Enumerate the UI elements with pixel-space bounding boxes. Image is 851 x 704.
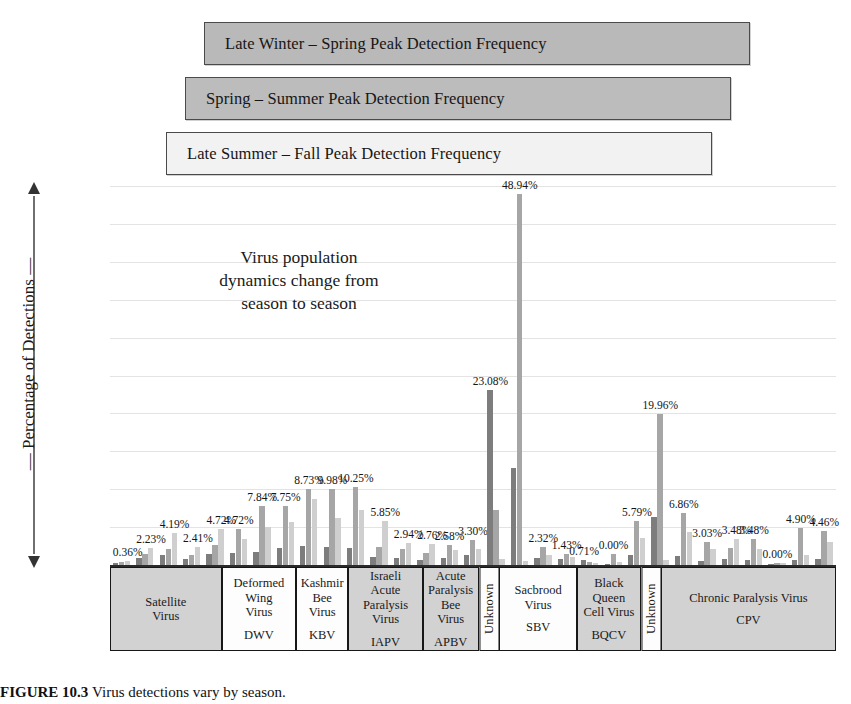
gridline	[110, 186, 836, 187]
bar-data-label: 7.75%	[271, 491, 301, 503]
bar-data-label: 0.00%	[599, 539, 629, 551]
category-abbreviation: KBV	[309, 628, 335, 643]
bar-data-label: 48.94%	[502, 179, 537, 191]
y-axis-title: — Percentage of Detections —	[19, 179, 39, 549]
bar-data-label: 3.30%	[458, 525, 488, 537]
bar	[376, 547, 381, 565]
y-axis-title-container: — Percentage of Detections —	[2, 180, 46, 570]
bar	[236, 529, 241, 565]
bar	[517, 194, 522, 565]
bar	[148, 548, 153, 565]
legend-item-late-summer-fall: Late Summer – Fall Peak Detection Freque…	[166, 132, 712, 175]
category-abbreviation: IAPV	[371, 635, 400, 650]
category-abbreviation: SBV	[526, 620, 550, 635]
bar	[511, 468, 516, 565]
bar	[640, 538, 645, 565]
gridline	[110, 489, 836, 490]
category-box: Black Queen Cell VirusBQCV	[577, 567, 640, 651]
bar	[470, 540, 475, 565]
legend-label: Late Winter – Spring Peak Detection Freq…	[225, 34, 547, 54]
bar	[265, 527, 270, 565]
bar-data-label: 23.08%	[473, 375, 508, 387]
gridline	[110, 413, 836, 414]
bar	[564, 554, 569, 565]
bar-data-label: 5.79%	[622, 506, 652, 518]
bar	[546, 555, 551, 565]
category-abbreviation: BQCV	[592, 628, 627, 643]
bar	[804, 555, 809, 565]
bar-data-label: 6.86%	[669, 498, 699, 510]
category-name: Kashmir Bee Virus	[301, 576, 344, 620]
category-abbreviation: APBV	[434, 635, 467, 650]
bar	[710, 549, 715, 565]
category-box: Unknown	[641, 567, 661, 651]
category-box: Deformed Wing VirusDWV	[222, 567, 296, 651]
bar-data-label: 19.96%	[643, 399, 678, 411]
bar	[406, 543, 411, 565]
bar	[534, 558, 539, 565]
bar-data-label: 2.23%	[136, 533, 166, 545]
bar	[734, 539, 739, 565]
bar-data-label: 3.03%	[692, 527, 722, 539]
bar	[324, 547, 329, 565]
bar	[394, 558, 399, 565]
bar	[353, 487, 358, 565]
category-name: Unknown	[482, 584, 497, 635]
bar	[206, 554, 211, 565]
bar	[751, 539, 756, 565]
bar	[628, 555, 633, 565]
bar	[464, 555, 469, 565]
category-name: Black Queen Cell Virus	[583, 576, 634, 620]
legend-item-spring-summer: Spring – Summer Peak Detection Frequency	[185, 77, 731, 120]
bar	[289, 522, 294, 565]
gridline	[110, 338, 836, 339]
bar	[329, 489, 334, 565]
bar-data-label: 2.41%	[183, 532, 213, 544]
bar	[172, 533, 177, 565]
annotation-line-1: Virus population	[183, 246, 415, 269]
bar	[651, 517, 656, 566]
category-box: Kashmir Bee VirusKBV	[296, 567, 348, 651]
bar	[195, 547, 200, 565]
bar	[728, 548, 733, 565]
bar	[312, 499, 317, 565]
bar	[675, 556, 680, 565]
bar	[493, 510, 498, 565]
bar	[335, 518, 340, 565]
bar	[757, 549, 762, 565]
legend: Late Winter – Spring Peak Detection Freq…	[166, 22, 786, 162]
category-name: Sacbrood Virus	[515, 583, 562, 612]
bar	[306, 489, 311, 565]
bar	[441, 558, 446, 565]
bar-data-label: 0.71%	[569, 545, 599, 557]
category-box: Sacbrood VirusSBV	[499, 567, 577, 651]
category-name: Chronic Paralysis Virus	[689, 591, 807, 606]
gridline	[110, 451, 836, 452]
bar	[821, 531, 826, 565]
bar	[540, 547, 545, 565]
annotation-line-3: season to season	[183, 292, 415, 315]
bar	[400, 549, 405, 565]
gridline	[110, 224, 836, 225]
legend-item-late-winter-spring: Late Winter – Spring Peak Detection Freq…	[204, 22, 750, 65]
bar	[242, 539, 247, 565]
arrow-down-icon	[27, 556, 41, 568]
bar	[476, 549, 481, 565]
bar	[359, 510, 364, 565]
bar	[218, 529, 223, 565]
bar	[487, 390, 492, 565]
bar	[798, 528, 803, 565]
bar	[570, 557, 575, 565]
bar	[634, 521, 639, 565]
category-abbreviation: CPV	[736, 613, 760, 628]
bar	[370, 557, 375, 565]
bar	[827, 542, 832, 565]
category-name: Israeli Acute Paralysis Virus	[363, 569, 408, 627]
bar	[189, 555, 194, 565]
category-name: Satellite Virus	[145, 595, 186, 624]
annotation-line-2: dynamics change from	[183, 269, 415, 292]
bar	[230, 553, 235, 565]
category-box: Israeli Acute Paralysis VirusIAPV	[348, 567, 422, 651]
category-name: Acute Paralysis Bee Virus	[428, 569, 473, 627]
bar-data-label: 10.25%	[338, 472, 373, 484]
